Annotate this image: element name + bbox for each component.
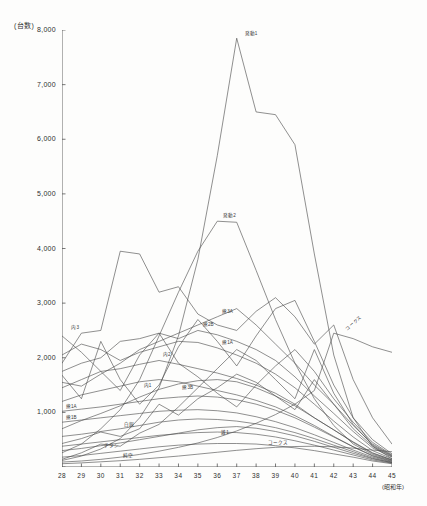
series-label: 発動1 (245, 30, 258, 37)
line-chart-svg: 発動1発動2内3熊3A熊2B熊1A内2内1熊3B熊1A熊1B白銅チタン純空コーク… (62, 30, 392, 467)
series-lines (62, 38, 392, 464)
series-line (62, 38, 392, 460)
series-label: 熊1A (66, 403, 78, 410)
series-label: 内1 (144, 382, 152, 389)
series-label: 純空 (123, 452, 133, 458)
y-tick-label: 7,000 (16, 81, 56, 88)
y-tick-label: 3,000 (16, 299, 56, 306)
plot-area: 発動1発動2内3熊3A熊2B熊1A内2内1熊3B熊1A熊1B白銅チタン純空コーク… (62, 30, 392, 467)
series-label: 熊3B (182, 384, 193, 391)
series-label: 発動2 (223, 212, 236, 219)
series-label: 熊1A (222, 339, 234, 346)
y-tick-label: 5,000 (16, 190, 56, 197)
series-label: 雑1 (221, 429, 229, 436)
series-labels: 発動1発動2内3熊3A熊2B熊1A内2内1熊3B熊1A熊1B白銅チタン純空コーク… (66, 30, 363, 458)
series-label: 熊1B (66, 414, 77, 421)
series-label: 熊3A (222, 308, 234, 315)
y-tick-label: 2,000 (16, 354, 56, 361)
y-tick-label: 8,000 (16, 26, 56, 33)
y-tick-label: 1,000 (16, 408, 56, 415)
chart-figure: (台数) (昭和年) 1,0002,0003,0004,0005,0006,00… (0, 0, 427, 506)
x-axis-unit-label: (昭和年) (382, 482, 404, 491)
series-line (62, 446, 392, 463)
series-label: 熊2B (203, 321, 214, 328)
series-label: コークス (344, 314, 363, 332)
series-label: チタン (104, 442, 119, 449)
x-tick-label: 45 (381, 472, 403, 479)
y-tick-label: 4,000 (16, 245, 56, 252)
series-label: 内3 (71, 324, 79, 331)
series-label: 内2 (163, 351, 171, 358)
y-tick-label: 6,000 (16, 135, 56, 142)
series-label: 白銅 (124, 421, 134, 428)
